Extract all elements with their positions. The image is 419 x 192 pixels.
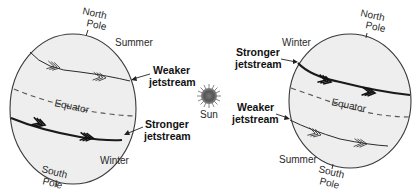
right-weaker-label-2: jetstream <box>231 113 279 125</box>
left-weaker-label-2: jetstream <box>148 76 196 88</box>
right-south-season-label: Summer <box>279 154 317 165</box>
left-south-season-label: Winter <box>100 155 130 166</box>
left-weaker-label: Weaker <box>153 64 190 76</box>
left-north-pole-tick <box>86 30 88 36</box>
sun-label: Sun <box>200 109 218 120</box>
left-stronger-label: Stronger <box>145 118 189 130</box>
right-stronger-pointer-head <box>293 59 298 64</box>
sun-icon <box>197 84 221 108</box>
right-stronger-label: Stronger <box>236 46 280 58</box>
right-north-season-label: Winter <box>282 37 312 48</box>
left-stronger-label-2: jetstream <box>143 130 191 142</box>
right-weaker-pointer-head <box>284 115 290 120</box>
right-stronger-label-2: jetstream <box>234 58 282 70</box>
left-north-season-label: Summer <box>115 37 153 48</box>
right-weaker-label: Weaker <box>237 101 274 113</box>
jetstream-diagram: North Pole Summer Weaker jetstream Equat… <box>0 0 419 192</box>
